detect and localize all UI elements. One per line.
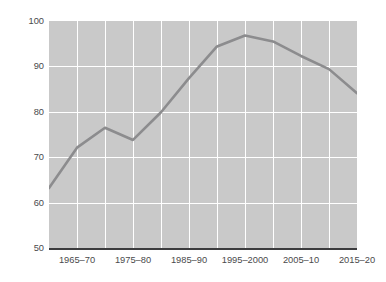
x-axis-tick-label: 2015–20: [317, 255, 386, 266]
y-axis-tick-label: 50: [18, 243, 44, 253]
y-axis-tick-label: 70: [18, 152, 44, 162]
plot-area: [49, 21, 357, 248]
line-chart: average annual population increase (mill…: [0, 0, 386, 282]
y-axis-tick-label: 100: [18, 16, 44, 26]
y-axis-tick-label: 80: [18, 107, 44, 117]
y-axis-tick-label: 60: [18, 198, 44, 208]
series-line: [49, 21, 357, 248]
y-axis-tick-label: 90: [18, 61, 44, 71]
x-axis-line: [49, 248, 357, 250]
